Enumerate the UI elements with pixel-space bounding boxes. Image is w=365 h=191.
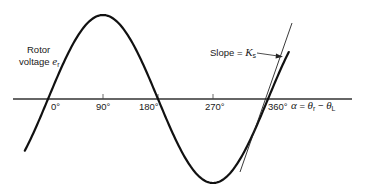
tick-label-270: 270°	[205, 102, 225, 112]
minus-sign: −	[315, 100, 326, 111]
y-label-rotor: Rotor	[27, 44, 50, 55]
tick-label-360: 360°	[268, 102, 288, 112]
diagram-canvas	[0, 0, 365, 191]
slope-arrow-line	[257, 53, 278, 56]
slope-symbol-sub: s	[252, 52, 256, 59]
slope-arrow-head	[276, 54, 283, 59]
slope-label-text: Slope =	[210, 47, 245, 58]
tick-label-180: 180°	[139, 102, 159, 112]
x-axis-label: α = θr − θL	[291, 100, 336, 112]
y-label-line1: Rotor	[27, 45, 50, 55]
y-label-symbol-sub: r	[57, 61, 59, 68]
slope-label: Slope = Ks	[210, 47, 256, 59]
tick-label-0: 0°	[51, 102, 60, 112]
y-label-voltage: voltage	[19, 56, 50, 67]
tick-label-90: 90°	[96, 102, 110, 112]
rotor-voltage-diagram: Rotor voltage er Slope = Ks 0° 90° 180° …	[0, 0, 365, 191]
y-label-line2: voltage er	[19, 56, 60, 68]
equals-sign: =	[297, 100, 308, 111]
theta-l-sub: L	[332, 105, 336, 112]
